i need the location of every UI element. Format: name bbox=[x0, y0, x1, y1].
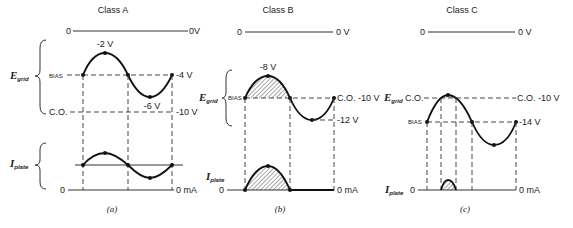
bias-value: -14 V bbox=[519, 117, 541, 127]
cutoff-value: -10 V bbox=[176, 107, 198, 117]
plate-zero-left: 0 bbox=[410, 185, 415, 195]
panel-class-c: Class C 0 0 V Egrid C.O. C.O. -10 V BIAS… bbox=[383, 5, 560, 214]
bias-label: BIAS bbox=[228, 95, 242, 101]
cutoff-label: C.O. bbox=[49, 107, 68, 117]
cutoff-label: C.O. bbox=[405, 93, 424, 103]
peak-label: -8 V bbox=[260, 62, 277, 72]
plate-brace bbox=[35, 143, 46, 189]
bias-label: BIAS bbox=[408, 119, 422, 125]
panel-title: Class B bbox=[262, 5, 293, 15]
grid-waveform bbox=[427, 95, 516, 145]
trough-label: -6 V bbox=[144, 101, 161, 111]
zero-left-label: 0 bbox=[237, 27, 242, 37]
plate-label: Iplate bbox=[9, 157, 29, 170]
zero-right-label: 0V bbox=[189, 26, 200, 36]
grid-label: Egrid bbox=[198, 91, 218, 104]
plate-zero-right: 0 mA bbox=[176, 185, 197, 195]
zero-left-label: 0 bbox=[420, 27, 425, 37]
zero-right-label: 0 V bbox=[336, 27, 350, 37]
grid-brace bbox=[35, 40, 46, 114]
panel-class-a: Class A 0 0V Egrid BIAS -4 V C.O. -10 V … bbox=[9, 5, 200, 214]
panel-class-b: Class B 0 0 V Egrid BIAS C.O. -10 V -8 V… bbox=[198, 5, 380, 214]
zero-left-label: 0 bbox=[66, 26, 71, 36]
plate-label: Iplate bbox=[384, 183, 404, 196]
caption: (b) bbox=[275, 204, 286, 214]
trough-value: -12 V bbox=[337, 115, 359, 125]
grid-label: Egrid bbox=[383, 91, 403, 104]
plate-zero-right: 0 mA bbox=[337, 185, 358, 195]
plate-zero-left: 0 bbox=[219, 185, 224, 195]
amplifier-class-diagram: Class A 0 0V Egrid BIAS -4 V C.O. -10 V … bbox=[0, 0, 573, 228]
bias-value: -4 V bbox=[176, 70, 193, 80]
zero-right-label: 0 V bbox=[518, 27, 532, 37]
plate-zero-right: 0 mA bbox=[519, 185, 540, 195]
bias-label: BIAS bbox=[49, 73, 63, 79]
caption: (c) bbox=[460, 204, 470, 214]
panel-title: Class C bbox=[446, 5, 478, 15]
caption: (a) bbox=[107, 204, 118, 214]
peak-label: -2 V bbox=[97, 39, 114, 49]
panel-title: Class A bbox=[98, 5, 129, 15]
grid-label: Egrid bbox=[9, 69, 29, 82]
plate-zero-left: 0 bbox=[60, 185, 65, 195]
plate-label: Iplate bbox=[205, 170, 225, 183]
cutoff-value: C.O. -10 V bbox=[517, 93, 560, 103]
bias-value: C.O. -10 V bbox=[337, 93, 380, 103]
